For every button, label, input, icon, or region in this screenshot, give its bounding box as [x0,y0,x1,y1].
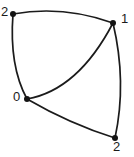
edge-left-v2-to-v0 [12,14,27,99]
edge-bottom-v0-to-v2 [27,99,115,138]
vertex-dot-top-left [10,11,16,17]
edge-top-v2-to-v1 [13,11,113,23]
diagram-canvas: 2 1 0 2 [0,0,134,157]
vertex-label-bottom-right: 2 [113,140,120,153]
edge-diagonal-v0-to-v1 [27,23,113,99]
edge-right-v1-to-v2 [113,23,121,138]
curved-quadrilateral-graph [0,0,134,157]
vertex-label-left-middle: 0 [13,90,20,103]
vertex-dot-left-middle [24,96,30,102]
vertex-label-top-left: 2 [1,5,8,18]
vertex-label-top-right: 1 [121,12,128,25]
vertex-dot-top-right [110,20,116,26]
